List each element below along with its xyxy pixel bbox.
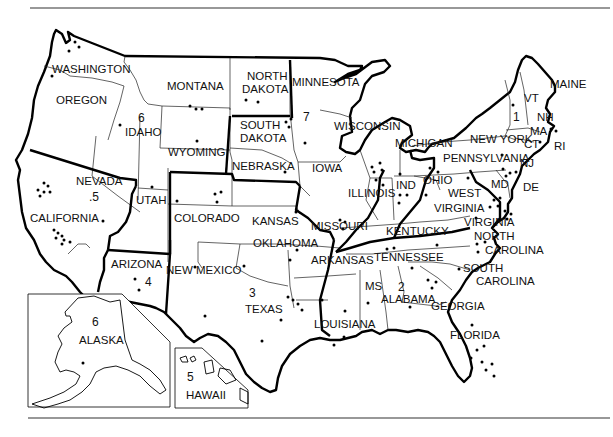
label-arizona: ARIZONA: [111, 258, 162, 270]
label-florida: FLORIDA: [450, 329, 500, 341]
label-arkansas: ARKANSAS: [311, 254, 374, 266]
label-south-carolina: SOUTH: [463, 262, 503, 274]
label-nevada: NEVADA: [76, 175, 123, 187]
label-md: MD: [491, 178, 509, 190]
region-number-6-alaska: 6: [92, 315, 99, 329]
label-ct: CT: [524, 138, 539, 150]
label-alabama: ALABAMA: [381, 293, 436, 305]
us-regions-map: WASHINGTON OREGON IDAHO MONTANA WYOMING …: [0, 0, 613, 437]
label-ind: IND: [396, 179, 416, 191]
label-ma: MA: [530, 125, 548, 137]
label-oklahoma: OKLAHOMA: [253, 237, 319, 249]
region-number-3: 3: [249, 286, 256, 300]
label-west-virginia-2: VIRGINIA: [434, 202, 485, 214]
region-number-2: 2: [398, 280, 405, 294]
label-minnesota: MINNESOTA: [292, 76, 360, 88]
label-vt: VT: [524, 92, 539, 104]
label-nj: NJ: [520, 157, 534, 169]
label-georgia: GEORGIA: [431, 300, 485, 312]
label-michigan: MICHIGAN: [395, 137, 453, 149]
label-maine: MAINE: [550, 78, 587, 90]
region-number-5: .5: [89, 190, 99, 204]
label-oregon: OREGON: [56, 94, 107, 106]
label-iowa: IOWA: [312, 162, 343, 174]
label-ms: MS: [365, 280, 383, 292]
label-new-mexico: NEW MEXICO: [166, 264, 241, 276]
label-wyoming: WYOMING: [168, 146, 226, 158]
label-pennsylvania: PENNSYLVANIA: [443, 152, 530, 164]
label-north-dakota: NORTH: [247, 70, 288, 82]
label-north-carolina: NORTH: [474, 230, 515, 242]
label-alaska: ALASKA: [79, 334, 124, 346]
label-kansas: KANSAS: [252, 215, 299, 227]
region-number-5-hawaii: 5: [187, 370, 194, 384]
alaska-inset: [28, 294, 170, 408]
label-colorado: COLORADO: [174, 212, 240, 224]
label-washington: WASHINGTON: [52, 63, 131, 75]
label-texas: TEXAS: [245, 303, 283, 315]
label-south-dakota: SOUTH: [240, 119, 280, 131]
label-utah: UTAH: [136, 194, 166, 206]
label-north-dakota-2: DAKOTA: [242, 83, 289, 95]
label-south-dakota-2: DAKOTA: [240, 132, 287, 144]
label-nh: NH: [537, 111, 554, 123]
label-california: CALIFORNIA: [30, 212, 99, 224]
region-number-6: 6: [138, 111, 145, 125]
label-tennessee: TENNESSEE: [374, 251, 444, 263]
label-nebraska: NEBRASKA: [232, 160, 295, 172]
label-hawaii: HAWAII: [186, 389, 226, 401]
label-west-virginia: WEST: [448, 187, 481, 199]
label-ohio: OHIO: [423, 174, 452, 186]
label-ri: RI: [554, 140, 566, 152]
map-canvas: WASHINGTON OREGON IDAHO MONTANA WYOMING …: [0, 0, 613, 437]
label-idaho: IDAHO: [125, 126, 161, 138]
region-number-1: 1: [513, 110, 520, 124]
label-montana: MONTANA: [167, 80, 224, 92]
label-virginia: VIRGINIA: [464, 216, 515, 228]
label-louisiana: LOUISIANA: [314, 318, 376, 330]
label-illinois: ILLINOIS: [348, 187, 396, 199]
region-number-4: 4: [145, 275, 152, 289]
label-wisconsin: WISCONSIN: [334, 120, 400, 132]
label-north-carolina-2: CAROLINA: [485, 244, 544, 256]
region-number-7: 7: [303, 110, 310, 124]
label-missouri: MISSOURI: [311, 220, 368, 232]
label-south-carolina-2: CAROLINA: [476, 275, 535, 287]
label-de: DE: [523, 181, 539, 193]
label-kentucky: KENTUCKY: [386, 225, 449, 237]
